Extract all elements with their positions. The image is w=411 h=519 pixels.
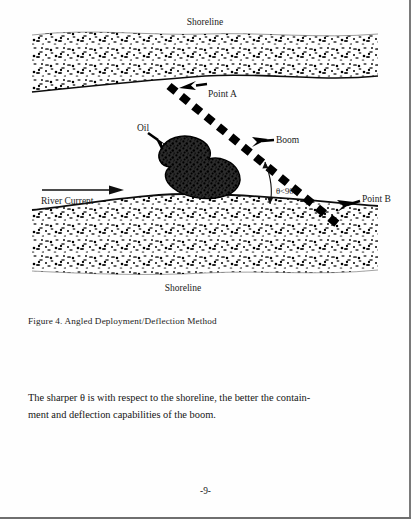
body-line-2: ment and deflection capabilities of the … [28,406,384,423]
label-river-current: River Current [41,196,94,206]
arrow-icon [179,81,207,90]
body-line-1: The sharper θ is with respect to the sho… [28,389,384,406]
label-angle-theta: θ<90˚ [276,186,297,196]
figure-4-diagram: Shoreline Point A Oil Boom River Current… [0,14,411,304]
label-oil: Oil [137,123,150,133]
scanned-page: Shoreline Point A Oil Boom River Current… [0,0,411,519]
top-shoreline-group [25,24,385,104]
arrow-icon [42,186,124,195]
label-point-b: Point B [362,194,391,204]
figure-svg: Shoreline Point A Oil Boom River Current… [0,14,411,304]
arrow-icon [252,137,274,147]
label-boom: Boom [276,135,300,145]
label-shoreline-bottom: Shoreline [165,283,201,293]
page-number: -9- [0,486,411,496]
body-paragraph: The sharper θ is with respect to the sho… [28,389,384,423]
figure-caption: Figure 4. Angled Deployment/Deflection M… [28,316,368,326]
oil-slick-icon [159,136,240,198]
label-shoreline-top: Shoreline [187,17,223,27]
label-point-a: Point A [208,89,237,99]
